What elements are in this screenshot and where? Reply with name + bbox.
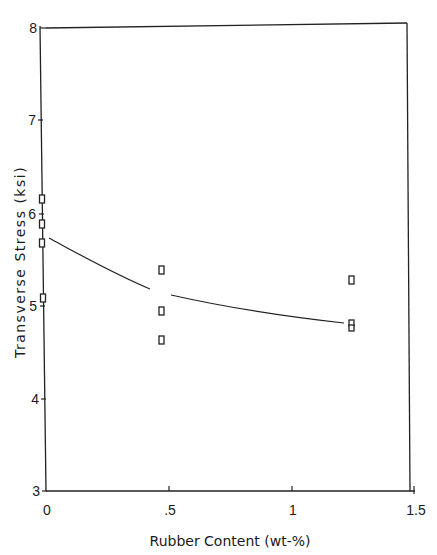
data-point (349, 325, 354, 331)
x-tick-label: 1.5 (406, 502, 426, 518)
y-tick-label: 5 (29, 298, 37, 314)
data-point (159, 266, 164, 274)
x-tick-label: 1 (289, 502, 297, 518)
y-tick-label: 7 (28, 112, 36, 128)
data-point (40, 195, 45, 203)
data-point (159, 307, 164, 315)
y-axis-title: Transverse Stress (ksi) (12, 166, 28, 359)
y-tick-label: 4 (31, 391, 39, 407)
data-point (349, 276, 354, 284)
y-axis: 8 7 6 5 4 3 (28, 20, 47, 499)
data-point (159, 336, 164, 344)
plot-frame (40, 23, 415, 491)
x-tick-label: 0 (43, 502, 51, 518)
chart: 8 7 6 5 4 3 0 .5 1 1.5 Rubber Content (w… (0, 0, 437, 555)
y-tick-label: 6 (28, 206, 36, 222)
y-tick-label: 3 (32, 483, 40, 499)
data-point (41, 294, 46, 302)
data-point (40, 220, 45, 228)
data-points (40, 195, 355, 344)
y-tick-label: 8 (29, 20, 37, 36)
x-axis-title: Rubber Content (wt-%) (150, 533, 311, 549)
x-tick-label: .5 (164, 502, 176, 518)
data-point (40, 239, 45, 247)
fit-curve (49, 238, 344, 323)
